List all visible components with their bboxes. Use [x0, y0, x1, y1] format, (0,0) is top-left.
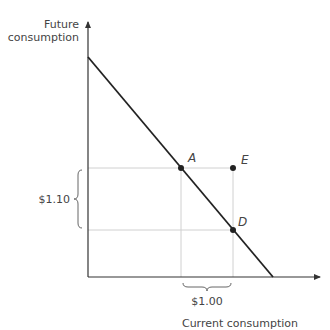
point-A-label: A	[187, 151, 196, 165]
point-A-marker	[178, 165, 184, 171]
y-axis-label-line1: Future	[44, 18, 79, 31]
x-axis-label: Current consumption	[182, 317, 298, 330]
vertical-brace	[74, 170, 82, 228]
point-E-marker	[230, 165, 236, 171]
budget-constraint-diagram: A E D Future consumption $1.10 $1.00 Cur…	[0, 0, 330, 330]
point-D-label: D	[238, 215, 247, 229]
horizontal-brace-label: $1.00	[191, 295, 223, 308]
guide-lines	[88, 168, 233, 277]
horizontal-brace	[183, 283, 231, 291]
vertical-brace-label: $1.10	[39, 193, 71, 206]
point-E-label: E	[241, 153, 249, 167]
point-D-marker	[230, 227, 236, 233]
y-axis-label-line2: consumption	[8, 31, 79, 44]
